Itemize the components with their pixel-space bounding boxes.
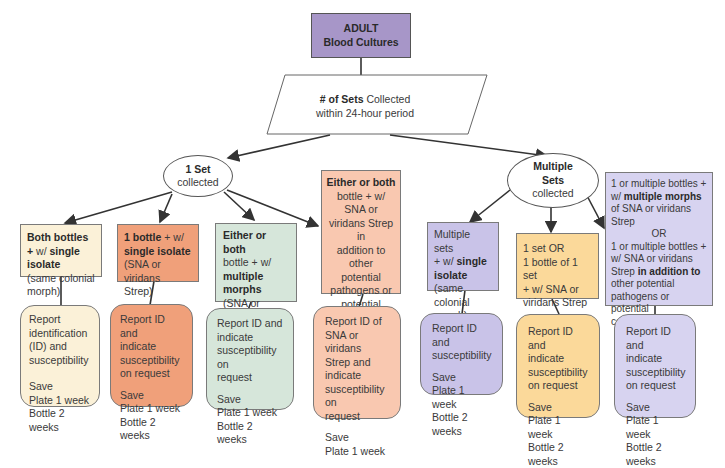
c7-bold-1: multiple morphs xyxy=(624,191,702,202)
c2-text-2: (SNA or viridans xyxy=(124,258,192,285)
a4-s2: Plate 1 week xyxy=(325,445,389,459)
a4-r2: SNA or viridans xyxy=(325,329,389,356)
a6-r1: Report ID and xyxy=(528,325,588,352)
one-set-collected-node: 1 Set collected xyxy=(163,155,233,197)
c4-text-3: viridans Strep in xyxy=(325,217,397,244)
c7-text-5: 1 or multiple bottles + xyxy=(611,241,707,254)
c3-bold-2: multiple xyxy=(223,270,263,282)
a4-r5: susceptibility on xyxy=(325,383,389,410)
condition-one-set-sna: 1 set OR 1 bottle of 1 set + w/ SNA or v… xyxy=(516,233,599,299)
c6-text-3: + w/ SNA or xyxy=(523,283,592,297)
c7-text-8: other potential xyxy=(611,278,707,291)
a5-s1: Save xyxy=(432,371,491,385)
a1-r2: identification xyxy=(29,327,91,341)
a3-s1: Save xyxy=(217,393,283,407)
multi-text: collected xyxy=(532,187,573,201)
a7-s2: Plate 1 week xyxy=(626,414,684,441)
c7-text-3: of SNA or viridans xyxy=(611,203,707,216)
c2-bold-2: single isolate xyxy=(124,245,191,257)
c7-text-6: w/ SNA or viridans xyxy=(611,253,707,266)
c5-bold-2: isolate xyxy=(434,269,467,281)
a4-r1: Report ID of xyxy=(325,315,389,329)
action-3: Report ID and indicate susceptibility on… xyxy=(206,308,294,410)
c1-text-2: (same colonial xyxy=(27,272,95,286)
c5-text-3: (same colonial xyxy=(434,282,492,309)
a6-r3: susceptibility xyxy=(528,366,588,380)
c7-text-4: Strep xyxy=(611,216,707,229)
a7-s3: Bottle 2 weeks xyxy=(626,441,684,468)
c4-text-1: bottle + w/ xyxy=(325,190,397,204)
c7-text-7: Strep xyxy=(611,266,635,277)
decision-bold: # of Sets xyxy=(320,93,364,105)
a2-r1: Report ID and xyxy=(120,313,183,340)
c4-bold: Either or both xyxy=(327,176,396,188)
root-subtitle: Blood Cultures xyxy=(323,36,398,48)
condition-both-bottles-single-isolate: Both bottles + w/ single isolate (same c… xyxy=(20,224,102,277)
action-7: Report ID and indicate susceptibility on… xyxy=(614,314,696,418)
c4-text-4: addition to other xyxy=(325,244,397,271)
c3-text: bottle + w/ xyxy=(223,256,289,270)
a2-s3: Bottle 2 weeks xyxy=(120,416,183,443)
action-1: Report identification (ID) and susceptib… xyxy=(20,305,100,407)
a4-r6: request xyxy=(325,410,389,424)
a7-r2: indicate xyxy=(626,352,684,366)
c7-text-9: pathogens or potential xyxy=(611,291,707,316)
c5-text: Multiple sets xyxy=(434,228,492,255)
root-node-adult-blood-cultures: ADULT Blood Cultures xyxy=(311,13,411,58)
a2-s2: Plate 1 week xyxy=(120,402,183,416)
condition-multiple-sets-single-isolate: Multiple sets + w/ single isolate (same … xyxy=(427,222,499,291)
c4-text-5: potential xyxy=(325,271,397,285)
condition-multiple-morphs: Either or both bottle + w/ multiple morp… xyxy=(215,223,297,302)
a1-r3: (ID) and xyxy=(29,340,91,354)
a7-r1: Report ID and xyxy=(626,325,684,352)
multiple-sets-collected-node: Multiple Sets collected xyxy=(507,153,599,208)
a5-s2: Plate 1 week xyxy=(432,384,491,411)
a6-s1: Save xyxy=(528,401,588,415)
c5-bold: single xyxy=(456,255,486,267)
a1-s1: Save xyxy=(29,380,91,394)
a4-r4: indicate xyxy=(325,369,389,383)
a5-r2: susceptibility xyxy=(432,349,491,363)
a7-r3: susceptibility xyxy=(626,366,684,380)
c6-text-1: 1 set OR xyxy=(523,242,592,256)
action-2: Report ID and indicate susceptibility on… xyxy=(110,304,193,407)
c3-bold: Either or both xyxy=(223,229,266,255)
a7-r4: on request xyxy=(626,379,684,393)
multi-label-2: Sets xyxy=(542,174,564,188)
a2-s1: Save xyxy=(120,389,183,403)
c1-bold-2: single isolate xyxy=(27,245,80,271)
c2-text: + w/ xyxy=(164,231,184,243)
c4-text-6: pathogens or xyxy=(325,284,397,298)
multi-label-1: Multiple xyxy=(533,160,573,174)
action-4: Report ID of SNA or viridans Strep and i… xyxy=(313,306,401,419)
a2-r4: on request xyxy=(120,367,183,381)
a6-s2: Plate 1 week xyxy=(528,414,588,441)
c5-text-2: + w/ xyxy=(434,255,454,267)
condition-one-bottle-single-isolate: 1 bottle + w/ single isolate (SNA or vir… xyxy=(117,224,199,282)
one-set-text: collected xyxy=(177,176,218,190)
a4-s1: Save xyxy=(325,431,389,445)
c2-bold: 1 bottle xyxy=(124,231,161,243)
a6-r2: indicate xyxy=(528,352,588,366)
a2-r3: susceptibility xyxy=(120,354,183,368)
condition-sna-in-addition: Either or both bottle + w/ SNA or virida… xyxy=(321,170,401,294)
action-6: Report ID and indicate susceptibility on… xyxy=(516,314,600,418)
condition-multiple-bottles-morphs-or-addition: 1 or multiple bottles + w/ multiple morp… xyxy=(605,172,713,306)
c7-text-2: w/ xyxy=(611,191,621,202)
a5-s3: Bottle 2 weeks xyxy=(432,411,491,438)
decision-sets-collected: # of Sets Collected within 24-hour perio… xyxy=(300,93,430,120)
a5-r1: Report ID and xyxy=(432,322,491,349)
c1-text: w/ xyxy=(36,245,47,257)
a1-s2: Plate 1 week xyxy=(29,394,91,408)
c7-text-1: 1 or multiple bottles + xyxy=(611,178,707,191)
a4-r3: Strep and xyxy=(325,356,389,370)
a1-r4: susceptibility xyxy=(29,354,91,368)
decision-text-2: within 24-hour period xyxy=(300,107,430,121)
a3-r3: susceptibility on xyxy=(217,344,283,371)
a3-s3: Bottle 2 weeks xyxy=(217,420,283,447)
c7-or: OR xyxy=(611,228,707,241)
c4-text-2: SNA or xyxy=(325,203,397,217)
c2-text-3: Strep) xyxy=(124,285,192,299)
a6-s3: Bottle 2 weeks xyxy=(528,441,588,468)
a1-r1: Report xyxy=(29,313,91,327)
